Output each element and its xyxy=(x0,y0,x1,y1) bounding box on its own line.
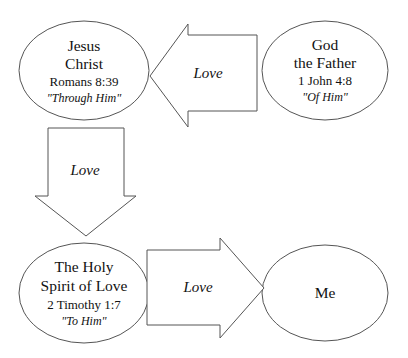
jesus-christ-line2: Christ xyxy=(65,55,104,72)
arrow-son-to-spirit[interactable]: Love xyxy=(35,128,136,236)
jesus-christ-line1: Jesus xyxy=(68,37,101,54)
arrow-spirit-to-me[interactable]: Love xyxy=(147,238,264,338)
node-god-the-father[interactable]: God the Father 1 John 4:8 "Of Him" xyxy=(262,21,388,120)
god-the-father-line1: God xyxy=(312,36,339,53)
arrow-father-to-son[interactable]: Love xyxy=(150,24,257,127)
me-label: Me xyxy=(315,284,336,301)
node-holy-spirit[interactable]: The Holy Spirit of Love 2 Timothy 1:7 "T… xyxy=(19,243,149,343)
god-the-father-quote: "Of Him" xyxy=(302,90,349,104)
holy-spirit-quote: "To Him" xyxy=(61,314,107,328)
arrow-son-to-spirit-label: Love xyxy=(69,162,100,178)
jesus-christ-reference: Romans 8:39 xyxy=(50,74,119,89)
arrow-spirit-to-me-label: Love xyxy=(182,279,213,295)
jesus-christ-quote: "Through Him" xyxy=(47,91,123,105)
god-the-father-line2: the Father xyxy=(294,54,357,71)
holy-spirit-line2: Spirit of Love xyxy=(41,277,128,294)
node-me[interactable]: Me xyxy=(262,245,388,341)
node-jesus-christ[interactable]: Jesus Christ Romans 8:39 "Through Him" xyxy=(19,21,149,120)
holy-spirit-line1: The Holy xyxy=(55,258,114,275)
god-the-father-reference: 1 John 4:8 xyxy=(298,73,352,88)
diagram-canvas-container: Jesus Christ Romans 8:39 "Through Him" G… xyxy=(0,0,408,358)
arrow-father-to-son-label: Love xyxy=(192,65,223,81)
arrow-son-to-spirit-shape[interactable] xyxy=(35,128,136,236)
love-flow-diagram: Jesus Christ Romans 8:39 "Through Him" G… xyxy=(0,0,408,358)
holy-spirit-reference: 2 Timothy 1:7 xyxy=(47,297,121,312)
